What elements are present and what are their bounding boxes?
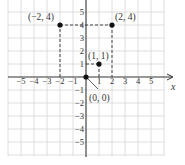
y-tick-label: −1 bbox=[75, 85, 84, 95]
y-tick-label: −5 bbox=[75, 137, 84, 147]
point-label-origin: (0, 0) bbox=[89, 93, 110, 104]
x-tick-label: −2 bbox=[55, 76, 64, 86]
y-tick-label: 1 bbox=[80, 59, 84, 69]
y-tick-label: −3 bbox=[75, 111, 84, 121]
x-tick-label: 1 bbox=[97, 76, 101, 86]
y-tick-label: 5 bbox=[80, 7, 84, 17]
y-tick-label: 3 bbox=[80, 33, 84, 43]
point-2-4 bbox=[109, 22, 114, 27]
x-tick-label: 2 bbox=[110, 76, 114, 86]
point-label-2-4: (2, 4) bbox=[115, 12, 136, 23]
y-tick-label: −2 bbox=[75, 98, 84, 108]
point-origin bbox=[83, 74, 88, 79]
y-tick-label: 2 bbox=[80, 46, 84, 56]
x-tick-label: −4 bbox=[29, 76, 39, 86]
coordinate-plane: x −5 −4 −3 −2 −1 1 2 3 4 5 5 4 3 2 1 −1 … bbox=[0, 0, 185, 165]
x-tick-label: −3 bbox=[42, 76, 51, 86]
x-tick-label: 5 bbox=[149, 76, 153, 86]
point-label-neg2-4: (−2, 4) bbox=[28, 12, 54, 23]
y-tick-label: −4 bbox=[75, 124, 85, 134]
point-label-1-1: (1, 1) bbox=[88, 51, 109, 62]
point-1-1 bbox=[96, 61, 101, 66]
point-neg2-4 bbox=[57, 22, 62, 27]
x-axis-label: x bbox=[170, 81, 176, 92]
x-tick-label: −5 bbox=[16, 76, 25, 86]
x-tick-label: 3 bbox=[123, 76, 127, 86]
